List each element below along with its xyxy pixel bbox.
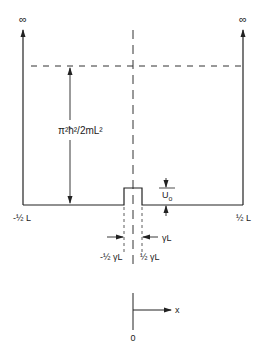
- coordinate-axis: [133, 293, 171, 330]
- barrier-right-edge-label: ½ γL: [140, 252, 160, 262]
- right-wall-position-label: ½ L: [236, 213, 251, 223]
- energy-level-label: π²ħ²/2mL²: [58, 125, 103, 136]
- potential-well-diagram: ∞ ∞ π²ħ²/2mL² Uo -½ L ½ L γL -½ γL ½ γL …: [0, 0, 263, 350]
- infinity-left-label: ∞: [19, 13, 27, 25]
- left-wall-position-label: -½ L: [13, 213, 31, 223]
- axis-x-label: x: [175, 305, 180, 315]
- infinity-right-label: ∞: [239, 13, 247, 25]
- barrier-left-edge-label: -½ γL: [100, 252, 123, 262]
- barrier-height-label: Uo: [162, 190, 173, 202]
- barrier-width-label: γL: [162, 233, 172, 243]
- axis-origin-label: 0: [130, 333, 135, 343]
